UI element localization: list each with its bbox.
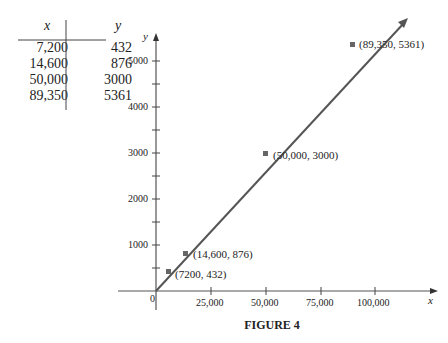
chart	[0, 0, 448, 343]
y-tick-label: 3000	[118, 147, 148, 158]
y-tick-label: 1000	[118, 239, 148, 250]
y-tick-label: 4000	[118, 101, 148, 112]
point-label: (89,350, 5361)	[359, 38, 424, 50]
x-tick-label: 75,000	[306, 297, 334, 308]
data-point	[350, 42, 355, 47]
y-tick-label: 2000	[118, 193, 148, 204]
x-axis-label: x	[428, 294, 433, 306]
data-point	[183, 251, 188, 256]
point-label: (7200, 432)	[175, 268, 226, 280]
y-axis-arrow-icon	[153, 33, 159, 41]
x-tick-label: 50,000	[251, 297, 279, 308]
point-label: (50,000, 3000)	[273, 149, 338, 161]
data-point	[166, 269, 171, 274]
origin-label: 0	[150, 293, 155, 304]
data-point	[263, 151, 268, 156]
y-tick-label: 5000	[118, 55, 148, 66]
figure-caption: FIGURE 4	[244, 318, 300, 333]
x-tick-label: 25,000	[196, 297, 224, 308]
x-tick-label: 100,000	[357, 297, 390, 308]
y-axis-label: y	[143, 30, 148, 42]
point-label: (14,600, 876)	[193, 248, 253, 260]
